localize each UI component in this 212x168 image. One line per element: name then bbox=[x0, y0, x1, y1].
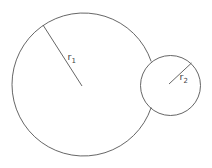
radius-r2-label: r2 bbox=[180, 71, 188, 85]
radius-r1-line bbox=[43, 25, 82, 86]
large-circle bbox=[12, 13, 151, 156]
small-circle bbox=[141, 56, 201, 116]
two-circles-diagram: r1 r2 bbox=[0, 0, 212, 168]
radius-r1-label: r1 bbox=[68, 51, 76, 65]
